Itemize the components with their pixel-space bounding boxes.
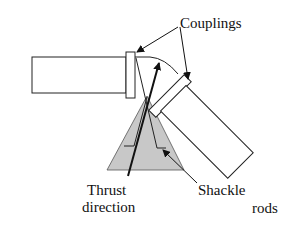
couplings-arrow-left: [137, 27, 178, 52]
couplings-arrow-right: [180, 27, 188, 79]
label-couplings: Couplings: [180, 16, 242, 31]
label-shackle: Shackle: [198, 183, 245, 198]
pipe-bend-thrust-diagram: [0, 0, 293, 228]
left-coupling: [126, 52, 135, 98]
label-direction: direction: [82, 200, 135, 215]
label-rods: rods: [252, 201, 278, 216]
label-thrust: Thrust: [87, 183, 126, 198]
left-pipe: [32, 57, 126, 93]
